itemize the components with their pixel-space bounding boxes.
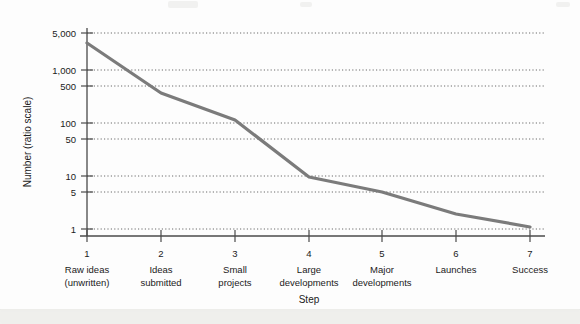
x-tick-category-7-line1: Success bbox=[512, 264, 548, 275]
x-tick-num-3: 3 bbox=[232, 248, 237, 259]
x-tick-category-4-line1: Large bbox=[297, 264, 321, 275]
x-tick-category-4-line2: developments bbox=[279, 277, 338, 288]
x-axis-title: Step bbox=[299, 294, 320, 305]
x-tick-category-1-line1: Raw ideas bbox=[65, 264, 110, 275]
y-tick-label-5000: 5,000 bbox=[52, 28, 76, 39]
x-tick-num-4: 4 bbox=[306, 248, 311, 259]
y-tick-label-1: 1 bbox=[71, 224, 76, 235]
y-tick-label-500: 500 bbox=[60, 81, 76, 92]
x-tick-category-2-line1: Ideas bbox=[149, 264, 172, 275]
x-tick-category-5-line2: developments bbox=[352, 277, 411, 288]
x-tick-category-1-line2: (unwritten) bbox=[65, 277, 110, 288]
chart-page: 5,000 1,000 500 100 50 10 5 1 1 2 3 4 5 … bbox=[0, 0, 580, 324]
x-tick-category-3-line1: Small bbox=[223, 264, 247, 275]
y-tick-label-50: 50 bbox=[65, 134, 76, 145]
x-tick-num-6: 6 bbox=[453, 248, 458, 259]
x-tick-category-2-line2: submitted bbox=[140, 277, 181, 288]
gridlines bbox=[87, 33, 545, 229]
y-axis-title: Number (ratio scale) bbox=[22, 97, 33, 188]
x-tick-num-7: 7 bbox=[527, 248, 532, 259]
x-tick-category-5-line1: Major bbox=[370, 264, 394, 275]
data-series-line bbox=[87, 43, 530, 227]
y-tick-label-10: 10 bbox=[65, 171, 76, 182]
y-tick-label-100: 100 bbox=[60, 118, 76, 129]
y-tick-label-5: 5 bbox=[71, 187, 76, 198]
x-tick-category-3-line2: projects bbox=[218, 277, 252, 288]
x-tick-category-6-line1: Launches bbox=[435, 264, 476, 275]
x-tick-num-2: 2 bbox=[158, 248, 163, 259]
y-tick-label-1000: 1,000 bbox=[52, 65, 76, 76]
x-tick-num-1: 1 bbox=[84, 248, 89, 259]
line-chart: 5,000 1,000 500 100 50 10 5 1 1 2 3 4 5 … bbox=[0, 0, 580, 324]
x-tick-num-5: 5 bbox=[379, 248, 384, 259]
